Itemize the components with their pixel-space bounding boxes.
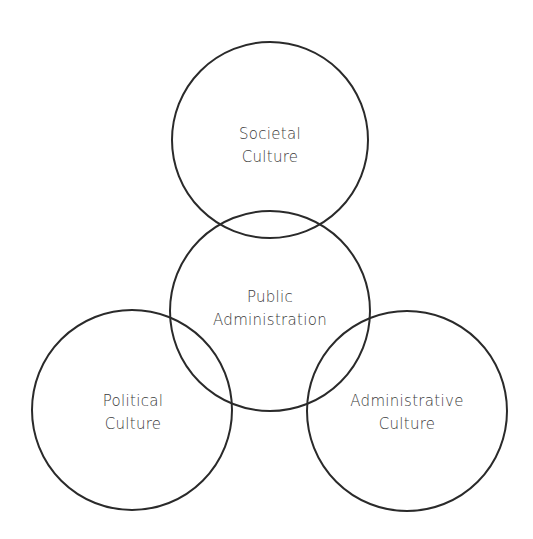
label-political-culture: Political Culture bbox=[103, 390, 163, 436]
label-line: Culture bbox=[239, 146, 301, 169]
label-public-administration: Public Administration bbox=[213, 286, 327, 332]
culture-venn-diagram: Societal Culture Public Administration P… bbox=[0, 0, 533, 539]
label-line: Administration bbox=[213, 309, 327, 332]
label-line: Societal bbox=[239, 123, 301, 146]
label-societal-culture: Societal Culture bbox=[239, 123, 301, 169]
label-administrative-culture: Administrative Culture bbox=[350, 390, 463, 436]
label-line: Public bbox=[213, 286, 327, 309]
label-line: Political bbox=[103, 390, 163, 413]
label-line: Administrative bbox=[350, 390, 463, 413]
label-line: Culture bbox=[103, 413, 163, 436]
label-line: Culture bbox=[350, 413, 463, 436]
